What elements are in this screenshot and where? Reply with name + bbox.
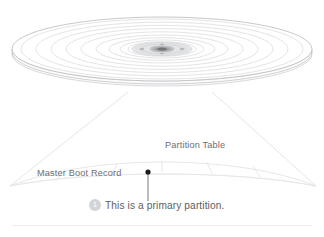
pointer-dot [145, 169, 150, 174]
disk-partition-diagram: Master Boot Record Partition Table 1 Thi… [0, 0, 324, 237]
caption-badge-number: 1 [89, 199, 101, 211]
label-master-boot-record: Master Boot Record [37, 168, 121, 178]
caption-text: This is a primary partition. [105, 200, 224, 211]
label-partition-table: Partition Table [165, 140, 225, 150]
caption: 1 This is a primary partition. [89, 199, 224, 211]
footer-divider [12, 225, 312, 226]
